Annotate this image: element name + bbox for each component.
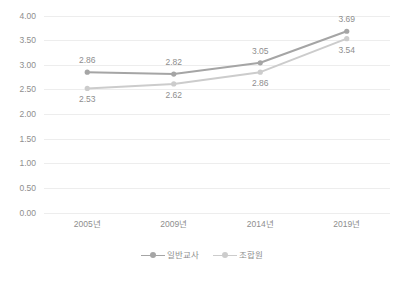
y-axis-tick-label: 3.00 [2, 61, 36, 70]
y-axis-tick-label: 4.00 [2, 12, 36, 21]
x-axis-tick-label: 2019년 [333, 219, 360, 229]
data-point-marker [171, 72, 176, 77]
legend-label: 일반교사 [167, 250, 199, 260]
y-axis-tick-label: 1.00 [2, 159, 36, 168]
y-axis-tick-label: 1.50 [2, 135, 36, 144]
y-axis-tick-label: 2.50 [2, 85, 36, 94]
data-point-marker [85, 86, 90, 91]
y-axis-tick-label: 2.00 [2, 110, 36, 119]
legend-item-2[interactable]: 조합원 [213, 250, 263, 260]
plot-area [44, 16, 390, 213]
legend-item-1[interactable]: 일반교사 [141, 250, 199, 260]
chart-legend: 일반교사조합원 [0, 250, 403, 260]
chart-container: 4.003.503.002.502.001.501.000.500.00 200… [0, 0, 403, 284]
y-axis: 4.003.503.002.502.001.501.000.500.00 [0, 0, 44, 284]
legend-marker-icon [213, 251, 237, 260]
legend-label: 조합원 [239, 250, 263, 260]
y-axis-tick-label: 0.50 [2, 184, 36, 193]
data-point-marker [85, 70, 90, 75]
data-point-marker [258, 70, 263, 75]
y-axis-tick-label: 3.50 [2, 36, 36, 45]
data-point-marker [344, 36, 349, 41]
plot-svg [44, 16, 390, 213]
data-point-marker [171, 81, 176, 86]
legend-marker-icon [141, 251, 165, 260]
data-point-marker [344, 29, 349, 34]
y-axis-tick-label: 0.00 [2, 209, 36, 218]
data-point-marker [258, 60, 263, 65]
x-axis-tick-label: 2014년 [247, 219, 274, 229]
x-axis-tick-label: 2009년 [160, 219, 187, 229]
x-axis: 2005년2009년2014년2019년 [44, 219, 390, 235]
x-axis-tick-label: 2005년 [74, 219, 101, 229]
